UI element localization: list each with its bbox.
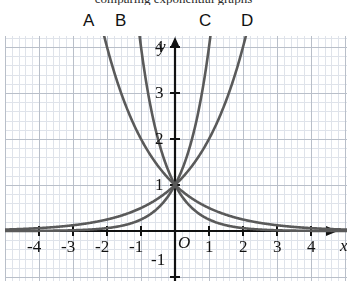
curve-d	[5, 36, 255, 230]
x-tick-label-3: 3	[273, 238, 282, 255]
curve-c	[5, 36, 215, 231]
graph-panel: -4-3-2-112344321-1Oxy	[5, 36, 347, 281]
y-tick-label-1: 1	[155, 176, 164, 193]
x-tick-label-2: 2	[239, 238, 248, 255]
x-tick-label-4: 4	[307, 238, 316, 255]
origin-label: O	[178, 234, 190, 251]
y-tick-label-neg1: -1	[151, 251, 165, 268]
y-tick-label-3: 3	[155, 84, 164, 101]
curve-label-a: A	[83, 12, 94, 29]
x-tick-label-neg1: -1	[129, 238, 143, 255]
plot-svg	[5, 36, 347, 281]
x-tick-label-1: 1	[205, 238, 214, 255]
x-tick-label-neg3: -3	[61, 238, 75, 255]
x-tick-label-neg4: -4	[27, 238, 41, 255]
y-axis-label: y	[158, 38, 166, 55]
y-tick-label-2: 2	[155, 130, 164, 147]
x-axis-label: x	[340, 237, 347, 254]
exponential-graph-figure: comparing exponential graphs ABCD -4-3-2…	[0, 0, 347, 281]
curve-label-d: D	[241, 12, 253, 29]
x-tick-label-neg2: -2	[95, 238, 109, 255]
curve-a	[135, 36, 347, 231]
curve-label-c: C	[199, 12, 211, 29]
curve-label-b: B	[115, 12, 126, 29]
curve-b	[95, 36, 347, 230]
top-cutoff-text: comparing exponential graphs	[0, 0, 347, 5]
